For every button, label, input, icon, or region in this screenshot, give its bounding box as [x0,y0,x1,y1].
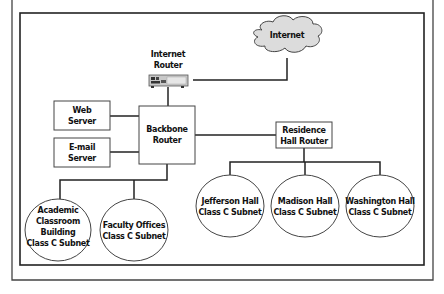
washington-subnet-label-1: Washington Hall [345,197,415,206]
residence-hall-router-box: Residence Hall Router [276,122,332,148]
email-server-label-1: E-mail [69,143,96,152]
internet-router-label-1: Internet [151,50,186,59]
madison-subnet-label-1: Madison Hall [278,197,333,206]
router-device-icon [149,75,188,88]
jefferson-subnet-label-2: Class C Subnet [199,208,262,217]
academic-subnet-label-2: Classroom [36,217,80,226]
backbone-router-box: Backbone Router [139,106,195,164]
residence-router-label-2: Hall Router [280,137,328,146]
web-server-label-1: Web [73,106,92,115]
network-diagram: Internet Internet Router Backbone Router… [0,0,444,294]
washington-subnet-ellipse: Washington Hall Class C Subnet [345,175,415,237]
jefferson-subnet-label-1: Jefferson Hall [201,197,259,206]
faculty-subnet-ellipse: Faculty Offices Class C Subnet [100,199,168,261]
web-server-label-2: Server [68,117,96,126]
email-server-label-2: Server [68,154,96,163]
washington-subnet-label-2: Class C Subnet [349,208,412,217]
academic-subnet-label-3: Building [41,228,76,237]
academic-subnet-label-4: Class C Subnet [27,239,90,248]
web-server-box: Web Server [54,101,110,130]
email-server-box: E-mail Server [54,138,110,167]
madison-subnet-label-2: Class C Subnet [274,208,337,217]
internet-cloud-label: Internet [270,31,305,40]
faculty-subnet-label-2: Class C Subnet [103,232,166,241]
internet-router-label-2: Router [154,61,183,70]
academic-subnet-label-1: Academic [38,206,79,215]
madison-subnet-ellipse: Madison Hall Class C Subnet [271,175,339,237]
backbone-router-label-1: Backbone [146,125,188,134]
jefferson-subnet-ellipse: Jefferson Hall Class C Subnet [196,175,264,237]
faculty-subnet-label-1: Faculty Offices [103,221,166,230]
residence-router-label-1: Residence [282,126,326,135]
academic-subnet-ellipse: Academic Classroom Building Class C Subn… [25,199,91,261]
backbone-router-label-2: Router [153,136,182,145]
